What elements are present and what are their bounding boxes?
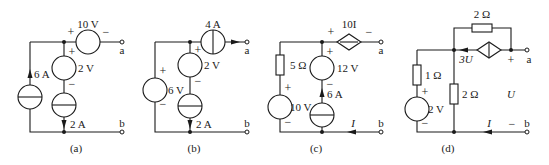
terminal-b <box>120 130 124 134</box>
voltage-source-10v <box>76 30 100 54</box>
arrow-left-icon <box>347 130 356 135</box>
terminal-b <box>379 130 383 134</box>
arrow-right-icon <box>231 40 240 45</box>
minus-sign: − <box>69 77 76 91</box>
terminal-a-label: a <box>379 44 384 56</box>
source-label: 2 V <box>204 59 220 71</box>
arrow-up-icon <box>320 88 325 97</box>
source-label: 4 A <box>205 18 221 30</box>
resistor-label: 1 Ω <box>425 69 441 81</box>
source-label: 6 A <box>34 68 50 80</box>
caption-d: (d) <box>442 142 455 155</box>
arrow-up-icon <box>28 69 33 78</box>
arrow-left-icon <box>459 48 468 53</box>
node-dot <box>320 130 324 134</box>
arrow-down-icon <box>188 120 193 129</box>
circuit-figure: + − 10 V 6 A + − 2 V 2 A a b (a) <box>0 0 549 165</box>
node-dot <box>62 130 66 134</box>
node-dot <box>188 40 192 44</box>
resistor-label: 5 Ω <box>290 59 306 71</box>
node-dot <box>509 48 513 52</box>
terminal-b-label: b <box>119 117 125 129</box>
current-source-4a <box>201 30 240 54</box>
plus-sign: + <box>195 43 202 57</box>
plus-sign: + <box>327 45 334 59</box>
plus-sign: + <box>422 85 429 99</box>
plus-sign: + <box>160 64 167 78</box>
resistor-label: 2 Ω <box>462 88 478 100</box>
resistor-1ohm <box>413 65 421 85</box>
minus-sign: − <box>422 116 429 130</box>
source-label: 6 V <box>168 84 184 96</box>
resistor-2ohm-top <box>472 24 492 32</box>
node-dot <box>320 40 324 44</box>
circuit-d: 2 Ω 3U 1 Ω + − 2 V 2 Ω + U − I a b <box>405 8 532 155</box>
plus-sign: + <box>508 53 515 67</box>
plus-sign: + <box>69 45 76 59</box>
caption-a: (a) <box>70 142 83 155</box>
circuit-b: 4 A + − 6 V + − 2 V 2 A a b (b) <box>143 18 250 155</box>
current-label: I <box>350 117 356 129</box>
source-label: 2 V <box>78 62 94 74</box>
minus-sign: − <box>103 25 110 39</box>
plus-sign: + <box>328 25 335 39</box>
plus-sign: + <box>68 25 75 39</box>
terminal-a-label: a <box>245 44 250 56</box>
plus-sign: + <box>285 81 292 95</box>
node-dot <box>62 40 66 44</box>
resistor-label: 2 Ω <box>474 8 490 20</box>
dependent-voltage-source <box>337 34 361 50</box>
terminal-b-label: b <box>378 117 384 129</box>
terminal-b <box>245 130 249 134</box>
node-dot <box>452 48 456 52</box>
dependent-source-label: 10I <box>342 18 357 30</box>
terminal-b-label: b <box>244 117 250 129</box>
source-label: 2 A <box>196 118 212 130</box>
source-label: 10 V <box>77 18 99 30</box>
source-label: 12 V <box>337 62 359 74</box>
arrow-left-icon <box>483 130 492 135</box>
minus-sign: − <box>160 97 167 111</box>
caption-c: (c) <box>310 142 323 155</box>
node-dot <box>452 130 456 134</box>
circuit-c: + − 10I 5 Ω + − 10 V + − 12 V 6 A I <box>268 18 384 155</box>
node-dot <box>188 130 192 134</box>
terminal-a-label: a <box>120 44 125 56</box>
source-label: 2 V <box>428 103 444 115</box>
current-label: I <box>486 117 492 129</box>
terminal-a-label: a <box>527 53 532 65</box>
minus-sign: − <box>509 117 516 131</box>
minus-sign: − <box>366 25 373 39</box>
terminal-a <box>525 48 529 52</box>
source-label: 6 A <box>327 88 343 100</box>
minus-sign: − <box>285 115 292 129</box>
arrow-down-icon <box>62 120 67 129</box>
caption-b: (b) <box>188 142 201 155</box>
terminal-b <box>525 130 529 134</box>
resistor-5ohm <box>276 55 284 75</box>
voltage-label: U <box>507 88 516 100</box>
terminal-b-label: b <box>524 117 530 129</box>
source-label: 10 V <box>290 101 312 113</box>
circuit-a: + − 10 V 6 A + − 2 V 2 A a b (a) <box>18 18 125 155</box>
minus-sign: − <box>195 74 202 88</box>
source-label: 2 A <box>70 118 86 130</box>
resistor-2ohm-middle <box>450 84 458 104</box>
dependent-source-label: 3U <box>458 53 474 65</box>
